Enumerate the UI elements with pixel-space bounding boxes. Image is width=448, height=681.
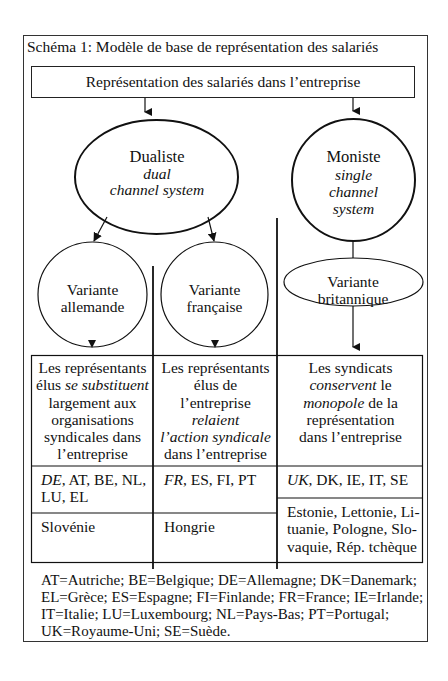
dualiste-node-text: Dualiste dual channel system: [90, 147, 224, 198]
francaise-node-text: Variante française: [167, 281, 262, 315]
countries-francaise: FR, ES, FI, PT: [164, 471, 276, 488]
moniste-node-text: Moniste single channel system: [300, 147, 407, 217]
britannique-node-text: Variante britannique: [293, 273, 413, 307]
description-francaise: Les représentants élus de l’entreprise r…: [154, 359, 277, 463]
allemande-node-text: Variante allemande: [45, 281, 140, 315]
arrow-dualiste-to-francaise: [208, 217, 214, 241]
arrow-dualiste-to-allemande: [94, 217, 107, 241]
new-members-allemande: Slovénie: [41, 518, 153, 535]
new-members-francaise: Hongrie: [164, 518, 276, 535]
countries-allemande: DE, AT, BE, NL, LU, EL: [41, 471, 153, 506]
country-code-legend: AT=Autriche; BE=Belgique; DE=Allemagne; …: [41, 572, 426, 640]
description-allemande: Les représentants élus se substituent la…: [32, 359, 153, 463]
countries-britannique: UK, DK, IE, IT, SE: [287, 471, 422, 488]
new-members-britannique: Estonie, Lettonie, Li- tuanie, Pologne, …: [287, 503, 422, 555]
description-britannique: Les syndicats conservent le monopole de …: [278, 359, 423, 445]
